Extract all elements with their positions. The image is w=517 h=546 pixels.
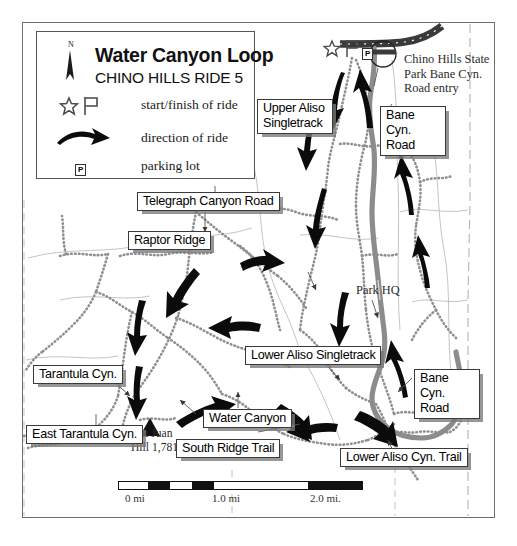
- scale-seg-5: [236, 482, 309, 489]
- parking-glyph: P: [75, 164, 86, 176]
- scale-seg-2: [170, 482, 192, 489]
- legend-label-parking: parking lot: [141, 158, 200, 174]
- trailhead-star-flag-icon: [322, 38, 366, 62]
- label-bane-cyn-road-north[interactable]: Bane Cyn. Road: [380, 106, 446, 156]
- label-bane-cyn-road-south[interactable]: Bane Cyn. Road: [414, 369, 480, 419]
- curved-arrow-icon: [55, 127, 113, 149]
- scale-seg-0: [119, 482, 148, 489]
- parking-icon: P: [75, 158, 86, 176]
- label-upper-aliso-singletrack[interactable]: Upper Aliso Singletrack: [257, 99, 333, 134]
- label-lower-aliso-cyn-trail[interactable]: Lower Aliso Cyn. Trail: [340, 448, 468, 467]
- scale-tick-0: 0 mi: [125, 492, 145, 504]
- label-upper-aliso-line1: Upper Aliso: [263, 101, 327, 116]
- label-bane-south-line2: Road: [420, 401, 474, 416]
- label-water-canyon[interactable]: Water Canyon: [203, 409, 292, 428]
- scale-bar: [118, 481, 363, 490]
- scale-seg-1: [148, 482, 170, 489]
- label-upper-aliso-line2: Singletrack: [263, 116, 327, 131]
- scale-tick-2: 2.0 mi.: [310, 492, 341, 504]
- legend-subtitle: CHINO HILLS RIDE 5: [95, 69, 243, 87]
- label-lower-aliso-singletrack[interactable]: Lower Aliso Singletrack: [245, 346, 381, 365]
- legend-label-start-finish: start/finish of ride: [141, 97, 238, 113]
- legend-label-direction: direction of ride: [141, 130, 228, 146]
- scale-seg-6: [308, 482, 361, 489]
- park-entry-note: Chino Hills State Park Bane Cyn. Road en…: [404, 52, 489, 96]
- label-raptor-ridge[interactable]: Raptor Ridge: [128, 231, 211, 250]
- scale-seg-4: [214, 482, 236, 489]
- park-entry-note-line3: Road entry: [404, 81, 489, 96]
- legend-title: Water Canyon Loop: [95, 44, 273, 67]
- park-entry-note-line1: Chino Hills State: [404, 52, 489, 67]
- north-label: N: [68, 40, 74, 49]
- map-canvas: N Water Canyon Loop CHINO HILLS RIDE 5 s…: [0, 0, 517, 546]
- label-bane-south-line1: Bane Cyn.: [420, 371, 474, 401]
- park-hq-label: Park HQ: [356, 283, 400, 298]
- scale-seg-3: [192, 482, 214, 489]
- label-south-ridge-trail[interactable]: South Ridge Trail: [176, 439, 280, 458]
- park-entry-note-line2: Park Bane Cyn.: [404, 67, 489, 82]
- star-flag-icon: [57, 94, 103, 116]
- map-parking-glyph: P: [362, 48, 373, 60]
- legend-box: N Water Canyon Loop CHINO HILLS RIDE 5 s…: [36, 31, 255, 179]
- map-parking-icon: P: [362, 42, 373, 60]
- label-telegraph-canyon-road[interactable]: Telegraph Canyon Road: [137, 192, 280, 211]
- scale-tick-1: 1.0 mi: [212, 492, 240, 504]
- label-tarantula-cyn[interactable]: Tarantula Cyn.: [33, 365, 123, 384]
- label-bane-north-line2: Road: [386, 138, 440, 153]
- label-east-tarantula-cyn[interactable]: East Tarantula Cyn.: [26, 425, 143, 444]
- label-bane-north-line1: Bane Cyn.: [386, 108, 440, 138]
